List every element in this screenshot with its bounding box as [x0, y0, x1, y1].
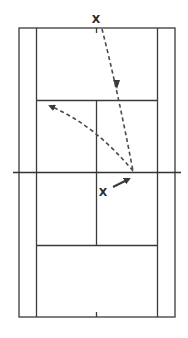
receiver-player-label: X: [99, 186, 108, 199]
receiver-movement-arrow: [113, 179, 129, 187]
serve-direction-arrow-icon: [113, 80, 120, 89]
tennis-court-diagram: X X: [0, 0, 188, 338]
return-shot-path: [50, 106, 133, 171]
server-player-label: X: [92, 13, 101, 26]
